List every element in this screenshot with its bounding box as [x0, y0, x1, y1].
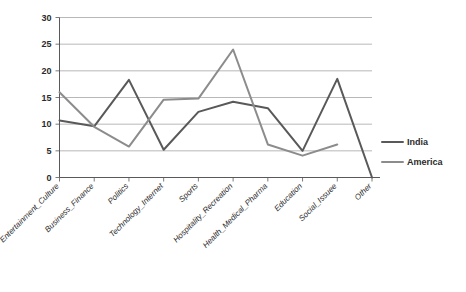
x-category-label: Education	[272, 181, 304, 213]
x-category-label: Health_Medical_Pharma	[201, 181, 270, 250]
chart-legend: IndiaAmerica	[382, 137, 444, 167]
y-tick-label: 25	[41, 39, 51, 49]
y-tick-label: 30	[41, 13, 51, 23]
gridlines	[60, 18, 373, 151]
data-series	[60, 50, 373, 178]
y-tick-label: 5	[46, 146, 51, 156]
y-tick-label: 20	[41, 66, 51, 76]
x-category-label: Entertainment_Culture	[0, 181, 61, 244]
y-axis-tick-marks	[56, 18, 60, 178]
x-axis-category-labels: Entertainment_CultureBusiness_FinancePol…	[0, 181, 374, 250]
x-axis-tick-marks	[60, 178, 373, 182]
x-category-label: Sports	[177, 182, 200, 205]
chart-canvas: 051015202530 Entertainment_CultureBusine…	[0, 0, 466, 292]
legend-label-america: America	[407, 157, 444, 167]
x-category-label: Politics	[106, 182, 130, 206]
y-tick-label: 15	[41, 93, 51, 103]
series-line-america	[60, 50, 338, 156]
x-category-label: Hospitality_Recreation	[172, 181, 235, 244]
legend-label-india: India	[407, 137, 429, 147]
x-category-label: Other	[353, 181, 374, 202]
series-line-india	[60, 79, 373, 178]
y-tick-label: 10	[41, 119, 51, 129]
y-axis-tick-labels: 051015202530	[41, 13, 51, 183]
y-tick-label: 0	[46, 173, 51, 183]
line-chart: 051015202530 Entertainment_CultureBusine…	[0, 0, 466, 292]
